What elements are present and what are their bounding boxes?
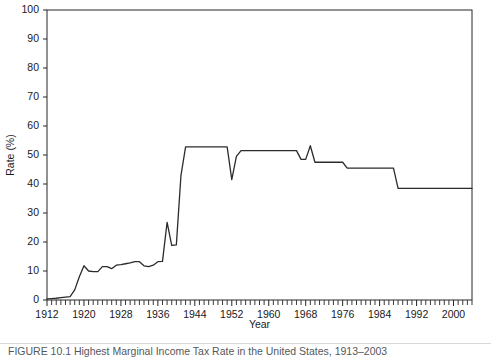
figure-caption: FIGURE 10.1 Highest Marginal Income Tax …	[8, 345, 486, 358]
y-tick-label: 80	[27, 61, 39, 73]
x-tick-label: 1968	[294, 308, 318, 320]
x-tick-label: 1912	[35, 308, 59, 320]
x-tick-label: 1944	[183, 308, 207, 320]
y-tick-label: 90	[27, 32, 39, 44]
y-tick-label: 30	[27, 206, 39, 218]
y-tick-label: 70	[27, 90, 39, 102]
y-tick-label: 10	[27, 264, 39, 276]
plot-frame	[47, 10, 472, 300]
x-tick-label: 1976	[331, 308, 355, 320]
x-tick-label: 1936	[146, 308, 170, 320]
y-axis-ticks: 0102030405060708090100	[21, 3, 47, 305]
y-tick-label: 60	[27, 119, 39, 131]
y-tick-label: 20	[27, 235, 39, 247]
x-tick-label: 1928	[109, 308, 133, 320]
axis-titles: YearRate (%)	[4, 134, 271, 330]
y-tick-label: 0	[33, 293, 39, 305]
y-tick-label: 100	[21, 3, 39, 15]
x-tick-label: 1984	[368, 308, 392, 320]
y-tick-label: 50	[27, 148, 39, 160]
x-tick-label: 1952	[220, 308, 244, 320]
series-line-rate	[47, 146, 472, 299]
x-axis-ticks: 1912192019281936194419521960196819761984…	[35, 300, 472, 320]
x-axis-title: Year	[249, 318, 271, 330]
x-tick-label: 1920	[72, 308, 96, 320]
x-tick-label: 2000	[442, 308, 466, 320]
caption-divider	[0, 343, 491, 344]
data-series-group	[47, 146, 472, 299]
plot-border	[47, 10, 472, 300]
y-axis-title: Rate (%)	[4, 134, 16, 175]
x-tick-label: 1992	[405, 308, 429, 320]
y-tick-label: 40	[27, 177, 39, 189]
